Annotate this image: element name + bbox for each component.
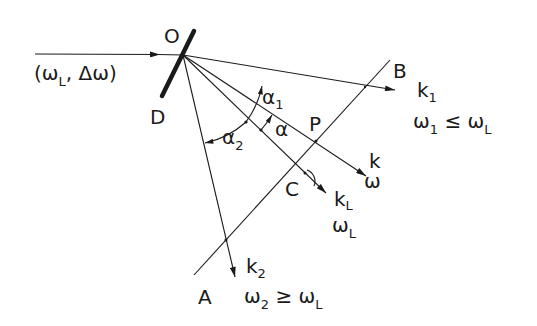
label-p: P xyxy=(309,112,321,136)
svg-text:k2: k2 xyxy=(246,254,266,281)
svg-text:kL: kL xyxy=(334,187,354,213)
label-omegal: ωL xyxy=(332,213,357,241)
label-omega2: ω2 ≥ ωL xyxy=(244,284,323,312)
incident-beam xyxy=(35,54,183,55)
svg-text:ω2 ≥ ωL: ω2 ≥ ωL xyxy=(244,284,323,312)
label-alpha1: α1 xyxy=(262,85,283,112)
label-o: O xyxy=(164,24,180,48)
label-k1: k1 xyxy=(417,78,437,105)
svg-text:ω1 ≤ ωL: ω1 ≤ ωL xyxy=(413,109,492,137)
label-alpha: α xyxy=(275,117,288,141)
ray-k xyxy=(183,55,366,176)
optics-diagram: O D B P C A (ωL, Δω) k1 ω1 ≤ ωL k ω kL ω… xyxy=(0,0,537,326)
label-incident: (ωL, Δω) xyxy=(34,61,117,89)
ray-k1 xyxy=(183,55,395,90)
svg-text:k1: k1 xyxy=(417,78,437,105)
label-c: C xyxy=(285,177,299,201)
svg-text:(ωL, Δω): (ωL, Δω) xyxy=(34,61,117,89)
svg-text:ωL: ωL xyxy=(332,213,357,241)
label-omega1: ω1 ≤ ωL xyxy=(413,109,492,137)
label-b: B xyxy=(393,59,407,83)
svg-text:α2: α2 xyxy=(222,125,243,153)
label-omega: ω xyxy=(364,169,381,193)
line-ab xyxy=(194,60,390,275)
ray-k2 xyxy=(183,55,235,277)
svg-text:α1: α1 xyxy=(262,85,283,112)
label-kl: kL xyxy=(334,187,354,213)
label-alpha2: α2 xyxy=(222,125,243,153)
label-a: A xyxy=(198,285,212,309)
label-d: D xyxy=(150,105,165,129)
arc-alpha xyxy=(261,115,272,130)
arc-alpha1 xyxy=(246,86,262,122)
label-k2: k2 xyxy=(246,254,266,281)
